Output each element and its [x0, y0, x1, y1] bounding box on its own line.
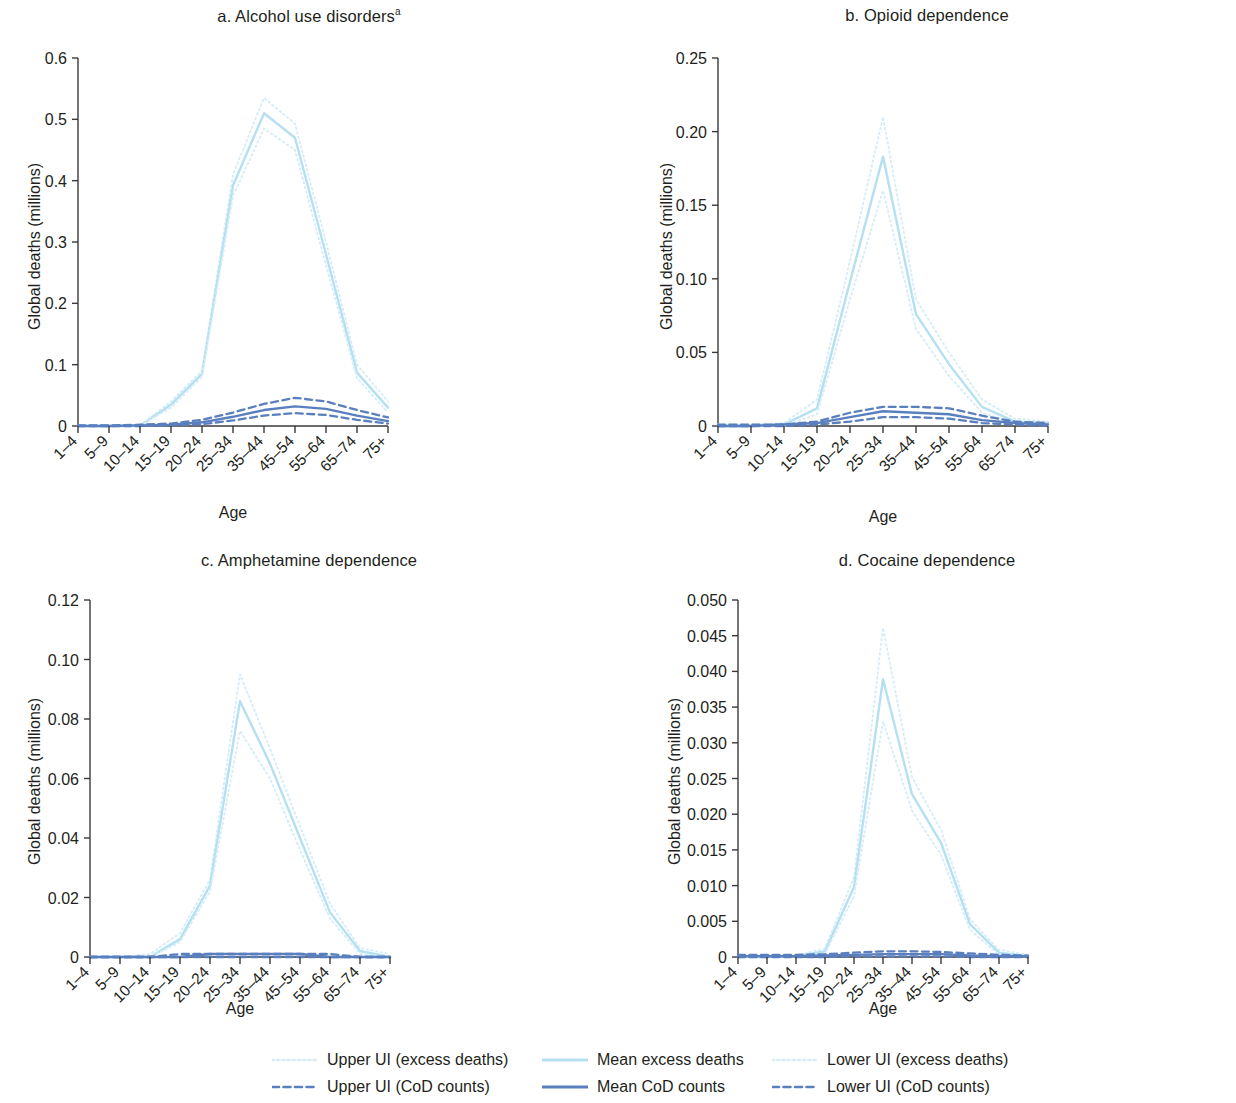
y-tick-label: 0.010	[687, 878, 727, 895]
legend-line-sample-icon	[542, 1053, 588, 1067]
legend-line-sample-icon	[542, 1080, 588, 1094]
figure-legend: Upper UI (excess deaths)Mean excess deat…	[0, 1046, 1236, 1103]
y-tick-label: 0.08	[48, 711, 79, 728]
panel-c-y-axis-title: Global deaths (millions)	[26, 698, 44, 865]
y-tick-label: 0.1	[45, 357, 67, 374]
y-tick-label: 0.10	[48, 652, 79, 669]
y-tick-label: 0	[698, 418, 707, 435]
x-tick-label: 55–64	[942, 432, 985, 475]
y-tick-label: 0.4	[45, 173, 67, 190]
y-tick-label: 0.030	[687, 735, 727, 752]
panel-c-x-axis-title: Age	[180, 1000, 300, 1018]
x-tick-label: 1–4	[62, 963, 93, 994]
x-tick-label: 20–24	[810, 432, 853, 475]
series-line	[738, 628, 1028, 957]
y-tick-label: 0.3	[45, 234, 67, 251]
x-tick-label: 35–44	[876, 432, 919, 475]
y-tick-label: 0.040	[687, 663, 727, 680]
panel-d-y-axis-title: Global deaths (millions)	[666, 698, 684, 865]
legend-item-label: Mean CoD counts	[597, 1078, 725, 1096]
y-tick-label: 0.05	[676, 344, 707, 361]
legend-items: Upper UI (excess deaths)Mean excess deat…	[272, 1046, 1022, 1100]
legend-line-sample-icon	[772, 1053, 818, 1067]
y-tick-label: 0.035	[687, 699, 727, 716]
series-line	[90, 701, 390, 957]
panel-a-plot-area: 00.10.20.30.40.50.61–45–910–1415–1920–24…	[0, 0, 618, 545]
panel-c-plot-area: 00.020.040.060.080.100.121–45–910–1415–1…	[0, 545, 618, 1040]
x-tick-label: 15–19	[777, 432, 820, 475]
y-tick-label: 0.12	[48, 592, 79, 609]
series-line	[78, 98, 388, 426]
legend-line-sample-icon	[272, 1080, 318, 1094]
panel-a-chart-svg: 00.10.20.30.40.50.61–45–910–1415–1920–24…	[0, 0, 618, 545]
y-tick-label: 0.6	[45, 50, 67, 67]
legend-item: Lower UI (CoD counts)	[772, 1078, 1022, 1096]
chart-panel-a: a. Alcohol use disordersa 00.10.20.30.40…	[0, 0, 618, 545]
y-tick-label: 0.045	[687, 628, 727, 645]
chart-panel-b: b. Opioid dependence 00.050.100.150.200.…	[618, 0, 1236, 545]
series-line	[718, 117, 1048, 425]
x-tick-label: 1–4	[710, 963, 741, 994]
y-tick-label: 0.025	[687, 771, 727, 788]
panel-b-y-axis-title: Global deaths (millions)	[658, 163, 676, 330]
series-line	[78, 113, 388, 426]
legend-item: Mean excess deaths	[542, 1051, 772, 1069]
x-tick-label: 1–4	[690, 432, 721, 463]
series-line	[738, 721, 1028, 957]
y-tick-label: 0.15	[676, 197, 707, 214]
panel-b-x-axis-title: Age	[823, 508, 943, 526]
y-tick-label: 0.005	[687, 913, 727, 930]
panel-d-x-axis-title: Age	[823, 1000, 943, 1018]
y-tick-label: 0.050	[687, 592, 727, 609]
legend-line-sample-icon	[272, 1053, 318, 1067]
y-tick-label: 0	[58, 418, 67, 435]
series-line	[78, 406, 388, 426]
y-tick-label: 0.015	[687, 842, 727, 859]
chart-panel-c: c. Amphetamine dependence 00.020.040.060…	[0, 545, 618, 1040]
y-tick-label: 0.06	[48, 771, 79, 788]
legend-item-label: Lower UI (excess deaths)	[827, 1051, 1008, 1069]
y-tick-label: 0.5	[45, 111, 67, 128]
legend-item-label: Upper UI (CoD counts)	[327, 1078, 490, 1096]
panel-a-x-axis-title: Age	[173, 504, 293, 522]
series-line	[90, 674, 390, 957]
legend-line-sample-icon	[772, 1080, 818, 1094]
y-tick-label: 0.04	[48, 830, 79, 847]
x-tick-label: 25–34	[843, 432, 886, 475]
y-tick-label: 0.2	[45, 295, 67, 312]
legend-item: Mean CoD counts	[542, 1078, 772, 1096]
panel-d-plot-area: 00.0050.0100.0150.0200.0250.0300.0350.04…	[618, 545, 1236, 1040]
y-tick-label: 0.10	[676, 271, 707, 288]
figure-panel-grid: a. Alcohol use disordersa 00.10.20.30.40…	[0, 0, 1236, 1040]
x-tick-label: 75+	[362, 963, 393, 994]
chart-panel-d: d. Cocaine dependence 00.0050.0100.0150.…	[618, 545, 1236, 1040]
y-tick-label: 0.20	[676, 124, 707, 141]
panel-c-chart-svg: 00.020.040.060.080.100.121–45–910–1415–1…	[0, 545, 618, 1090]
legend-item: Lower UI (excess deaths)	[772, 1051, 1022, 1069]
x-tick-label: 45–54	[909, 432, 952, 475]
y-tick-label: 0.02	[48, 890, 79, 907]
x-tick-label: 75+	[1020, 432, 1051, 463]
legend-item-label: Upper UI (excess deaths)	[327, 1051, 508, 1069]
legend-item-label: Lower UI (CoD counts)	[827, 1078, 990, 1096]
series-line	[78, 129, 388, 426]
y-tick-label: 0	[70, 949, 79, 966]
x-tick-label: 75+	[360, 432, 391, 463]
y-tick-label: 0.020	[687, 806, 727, 823]
series-line	[90, 731, 390, 957]
series-line	[718, 190, 1048, 426]
panel-b-plot-area: 00.050.100.150.200.251–45–910–1415–1920–…	[618, 0, 1236, 545]
legend-item-label: Mean excess deaths	[597, 1051, 744, 1069]
panel-b-chart-svg: 00.050.100.150.200.251–45–910–1415–1920–…	[618, 0, 1236, 545]
x-tick-label: 65–74	[317, 432, 360, 475]
panel-a-y-axis-title: Global deaths (millions)	[26, 163, 44, 330]
x-tick-label: 10–14	[744, 432, 787, 475]
x-tick-label: 65–74	[975, 432, 1018, 475]
legend-item: Upper UI (CoD counts)	[272, 1078, 542, 1096]
x-tick-label: 75+	[1000, 963, 1031, 994]
y-tick-label: 0.25	[676, 50, 707, 67]
legend-item: Upper UI (excess deaths)	[272, 1051, 542, 1069]
series-line	[738, 679, 1028, 957]
x-tick-label: 1–4	[50, 432, 81, 463]
y-tick-label: 0	[718, 949, 727, 966]
